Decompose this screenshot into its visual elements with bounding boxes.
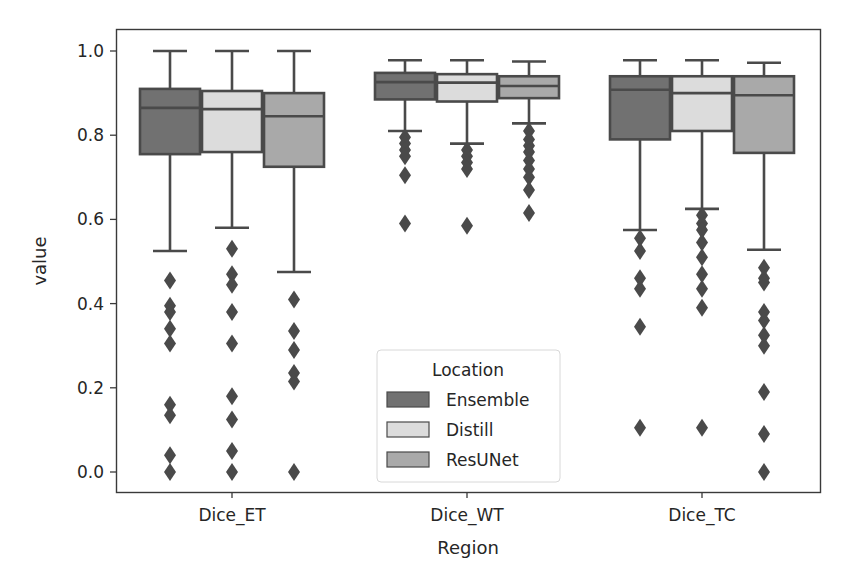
box-dice_tc: [672, 60, 732, 437]
legend-label-ensemble: Ensemble: [446, 390, 529, 410]
outlier-marker: [226, 335, 238, 353]
outlier-marker: [461, 217, 473, 235]
outlier-marker: [226, 240, 238, 258]
outlier-marker: [634, 318, 646, 336]
legend: LocationEnsembleDistillResUNet: [377, 350, 560, 482]
legend-swatch-distill: [387, 422, 429, 437]
outlier-marker: [164, 271, 176, 289]
y-tick-label: 1.0: [77, 41, 104, 61]
iqr-box: [437, 74, 497, 101]
iqr-box: [734, 76, 794, 153]
outlier-marker: [288, 290, 300, 308]
box-plot-chart: 0.00.20.40.60.81.0 Dice_ETDice_WTDice_TC…: [0, 0, 864, 584]
y-axis: 0.00.20.40.60.81.0: [77, 41, 116, 482]
box-dice_tc: [734, 63, 794, 481]
iqr-box: [264, 93, 324, 167]
outlier-marker: [696, 280, 708, 298]
outlier-marker: [288, 341, 300, 359]
box-dice_et: [202, 51, 262, 481]
outlier-marker: [226, 276, 238, 294]
outlier-marker: [164, 446, 176, 464]
outlier-marker: [523, 181, 535, 199]
iqr-box: [672, 76, 732, 131]
box-dice_et: [264, 51, 324, 481]
iqr-box: [202, 91, 262, 152]
outlier-marker: [758, 425, 770, 443]
legend-label-distill: Distill: [446, 420, 494, 440]
outlier-marker: [758, 383, 770, 401]
iqr-box: [140, 89, 200, 154]
y-axis-title: value: [29, 236, 50, 285]
outlier-marker: [288, 463, 300, 481]
outlier-marker: [164, 335, 176, 353]
legend-title: Location: [432, 360, 504, 380]
outlier-marker: [288, 322, 300, 340]
box-dice_tc: [610, 60, 670, 437]
outlier-marker: [226, 387, 238, 405]
outlier-marker: [226, 442, 238, 460]
outlier-marker: [696, 299, 708, 317]
outlier-marker: [399, 166, 411, 184]
legend-label-resunet: ResUNet: [446, 450, 519, 470]
outlier-marker: [226, 410, 238, 428]
box-dice_et: [140, 51, 200, 481]
outlier-marker: [164, 406, 176, 424]
y-tick-label: 0.6: [77, 209, 104, 229]
outlier-marker: [696, 419, 708, 437]
outlier-marker: [399, 215, 411, 233]
outlier-marker: [164, 463, 176, 481]
outlier-marker: [226, 463, 238, 481]
outlier-marker: [758, 337, 770, 355]
outlier-marker: [226, 303, 238, 321]
outlier-marker: [758, 463, 770, 481]
x-axis-title: Region: [437, 537, 499, 558]
x-tick-label: Dice_TC: [668, 505, 735, 526]
iqr-box: [610, 76, 670, 139]
y-tick-label: 0.0: [77, 462, 104, 482]
x-tick-label: Dice_ET: [198, 505, 266, 526]
x-axis: Dice_ETDice_WTDice_TC: [198, 492, 735, 526]
outlier-marker: [634, 280, 646, 298]
outlier-marker: [523, 204, 535, 222]
y-tick-label: 0.8: [77, 125, 104, 145]
box-dice_wt: [499, 62, 559, 223]
box-dice_wt: [375, 60, 435, 232]
legend-swatch-ensemble: [387, 392, 429, 407]
outlier-marker: [696, 248, 708, 266]
outlier-marker: [634, 419, 646, 437]
box-dice_wt: [437, 60, 497, 234]
outlier-marker: [634, 242, 646, 260]
x-tick-label: Dice_WT: [430, 505, 504, 526]
iqr-box: [375, 73, 435, 100]
y-tick-label: 0.4: [77, 294, 104, 314]
y-tick-label: 0.2: [77, 378, 104, 398]
legend-swatch-resunet: [387, 452, 429, 467]
